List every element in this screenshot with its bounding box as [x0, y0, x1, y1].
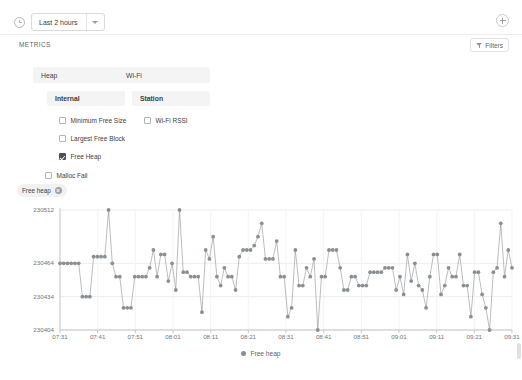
- metric-label: Malloc Fail: [57, 172, 88, 179]
- checkbox-free-heap[interactable]: [59, 153, 66, 160]
- metric-item-malloc-fail[interactable]: Malloc Fail: [45, 168, 126, 183]
- metric-item-minimum-free-size[interactable]: Minimum Free Size: [59, 113, 126, 128]
- plus-circle-icon[interactable]: [496, 14, 509, 27]
- metrics-header: METRICS Filters: [0, 34, 522, 58]
- x-axis-tick: 09:11: [424, 333, 450, 340]
- checkbox-largest-free-block[interactable]: [59, 135, 66, 142]
- time-range-control: Last 2 hours: [14, 13, 105, 31]
- checkbox-malloc-fail[interactable]: [45, 172, 52, 179]
- metric-item-largest-free-block[interactable]: Largest Free Block: [59, 131, 126, 146]
- selected-metric-chip[interactable]: Free heap: [17, 184, 67, 197]
- x-axis-tick: 09:01: [386, 333, 412, 340]
- checkbox-minimum-free-size[interactable]: [59, 117, 66, 124]
- filters-button-label: Filters: [485, 42, 503, 49]
- x-axis-tick: 08:31: [273, 333, 299, 340]
- clock-icon: [14, 17, 25, 28]
- chevron-down-icon[interactable]: [87, 21, 104, 24]
- x-axis-tick: 08:21: [235, 333, 261, 340]
- group-header-heap[interactable]: Heap: [33, 67, 125, 83]
- legend-label: Free heap: [250, 350, 280, 357]
- group-header-wifi[interactable]: Wi-Fi: [118, 67, 210, 83]
- x-axis-tick: 08:11: [198, 333, 224, 340]
- y-axis-tick: 230512: [14, 206, 54, 213]
- x-axis-tick: 07:41: [85, 333, 111, 340]
- selected-metrics-row: Free heap: [0, 182, 522, 202]
- metric-item-wifi-rssi[interactable]: Wi-Fi RSSI: [144, 113, 210, 128]
- metric-group-wifi: Wi-Fi Station Wi-Fi RSSI: [118, 67, 210, 128]
- filters-button[interactable]: Filters: [470, 38, 509, 52]
- free-heap-chart: 230404230434230464230512 07:3107:4107:51…: [0, 202, 522, 380]
- x-axis-tick: 07:31: [47, 333, 73, 340]
- vertical-scrollbar-thumb[interactable]: [517, 343, 521, 359]
- funnel-icon: [476, 42, 482, 48]
- x-axis-tick: 07:51: [122, 333, 148, 340]
- chip-label: Free heap: [22, 187, 51, 194]
- x-axis-tick: 09:21: [461, 333, 487, 340]
- y-axis-tick: 230404: [14, 326, 54, 333]
- close-circle-icon[interactable]: [55, 187, 62, 194]
- chart-plot: [0, 202, 522, 347]
- x-axis-tick: 08:51: [348, 333, 374, 340]
- y-axis-tick: 230464: [14, 259, 54, 266]
- y-axis-tick: 230434: [14, 293, 54, 300]
- metric-label: Free Heap: [71, 153, 102, 160]
- metric-item-free-heap[interactable]: Free Heap: [59, 149, 126, 164]
- metric-label: Largest Free Block: [71, 135, 126, 142]
- time-range-value: Last 2 hours: [32, 19, 86, 26]
- x-axis-tick: 08:01: [160, 333, 186, 340]
- metric-group-heap: Heap Internal Minimum Free Size Largest …: [33, 67, 126, 183]
- top-toolbar: Last 2 hours: [0, 0, 522, 35]
- subgroup-header-internal[interactable]: Internal: [47, 91, 125, 106]
- page-title: METRICS: [19, 41, 51, 48]
- chart-legend: Free heap: [0, 350, 522, 357]
- metric-label: Wi-Fi RSSI: [156, 117, 188, 124]
- metrics-tree: Heap Internal Minimum Free Size Largest …: [0, 58, 522, 180]
- legend-marker-icon: [241, 351, 246, 356]
- time-range-select[interactable]: Last 2 hours: [31, 13, 105, 31]
- x-axis-tick: 08:41: [311, 333, 337, 340]
- checkbox-wifi-rssi[interactable]: [144, 117, 151, 124]
- subgroup-header-station[interactable]: Station: [132, 91, 210, 106]
- x-axis-tick: 09:31: [499, 333, 522, 340]
